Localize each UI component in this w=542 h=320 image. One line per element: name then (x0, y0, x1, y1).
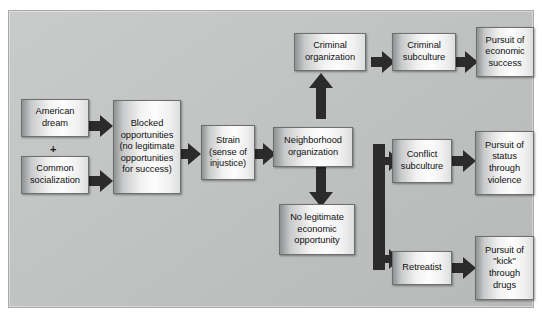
node-blocked-opportunities-label: Blockedopportunities(no legitimateopport… (117, 118, 177, 176)
node-no-legitimate-economic-opportunity[interactable]: No legitimateeconomicopportunity (279, 204, 355, 255)
arrow-american-dream-to-blocked (87, 115, 113, 137)
node-pursuit-economic-success-label: Pursuit ofeconomicsuccess (480, 35, 530, 70)
node-pursuit-kick-drugs[interactable]: Pursuit of"kick"throughdrugs (475, 236, 534, 300)
node-pursuit-economic-success[interactable]: Pursuit ofeconomicsuccess (476, 27, 534, 77)
arrow-neighborhood-to-criminal-organization (309, 73, 333, 119)
arrow-common-socialization-to-blocked (87, 170, 113, 192)
plus-connector-symbol: + (50, 144, 56, 155)
node-pursuit-status-violence[interactable]: Pursuit ofstatusthroughviolence (475, 131, 534, 195)
node-criminal-organization[interactable]: Criminalorganization (294, 33, 366, 71)
node-strain[interactable]: Strain(sense ofinjustice) (201, 125, 255, 180)
node-pursuit-status-violence-label: Pursuit ofstatusthroughviolence (479, 140, 530, 186)
node-common-socialization-label: Commonsocialization (25, 163, 85, 186)
node-retreatist-label: Retreatist (396, 262, 448, 274)
node-conflict-subculture-label: Conflictsubculture (396, 149, 448, 172)
arrow-neighborhood-to-no-legitimate (309, 163, 333, 207)
node-american-dream-label: Americandream (25, 106, 85, 129)
node-american-dream[interactable]: Americandream (21, 99, 89, 137)
node-conflict-subculture[interactable]: Conflictsubculture (392, 139, 452, 183)
node-neighborhood-organization-label: Neighborhoodorganization (277, 135, 349, 158)
node-retreatist[interactable]: Retreatist (392, 251, 452, 285)
node-criminal-subculture-label: Criminalsubculture (396, 40, 452, 63)
arrow-conflict-subculture-to-pursuit-status (452, 150, 476, 172)
arrow-retreatist-to-pursuit-kick (452, 257, 476, 279)
node-neighborhood-organization[interactable]: Neighborhoodorganization (273, 127, 353, 167)
node-no-legitimate-economic-opportunity-label: No legitimateeconomicopportunity (283, 212, 351, 247)
node-pursuit-kick-drugs-label: Pursuit of"kick"throughdrugs (479, 245, 530, 291)
diagram-canvas: Americandream + Commonsocialization Bloc… (8, 10, 534, 308)
node-criminal-subculture[interactable]: Criminalsubculture (392, 33, 456, 71)
node-blocked-opportunities[interactable]: Blockedopportunities(no legitimateopport… (113, 100, 181, 194)
arrow-criminal-subculture-to-pursuit-economic (454, 51, 478, 73)
node-common-socialization[interactable]: Commonsocialization (21, 156, 89, 194)
node-strain-label: Strain(sense ofinjustice) (205, 135, 251, 170)
node-criminal-organization-label: Criminalorganization (298, 40, 362, 63)
